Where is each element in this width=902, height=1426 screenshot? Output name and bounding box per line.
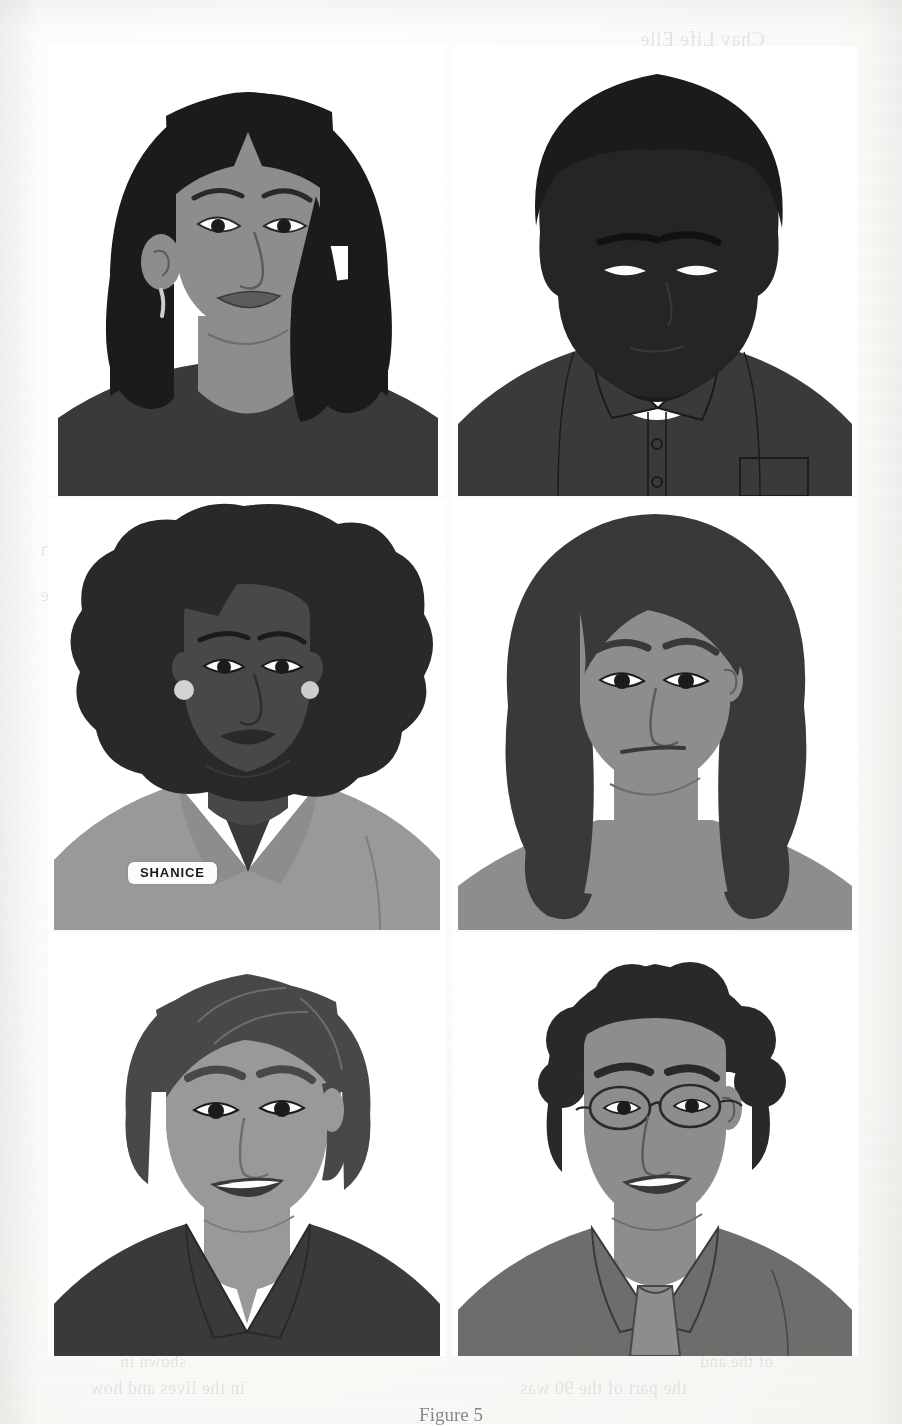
portrait-cell-2 — [452, 46, 858, 496]
figure-caption: Figure 5 — [0, 1404, 902, 1426]
name-badge-shanice: SHANICE — [128, 862, 217, 884]
portrait-cell-4 — [452, 498, 858, 930]
portrait-cell-1 — [48, 46, 446, 496]
portrait-cell-5 — [48, 932, 446, 1356]
portrait-cell-6 — [452, 932, 858, 1356]
portrait-cell-3 — [48, 498, 446, 930]
